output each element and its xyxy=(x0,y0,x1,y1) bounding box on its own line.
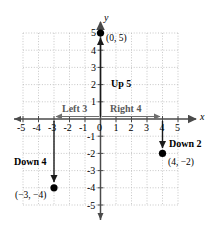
x-tick-1: 1 xyxy=(114,123,119,133)
point-neg3-neg4-label: (−3, −4) xyxy=(15,191,46,201)
y-axis-bottom-arrowhead xyxy=(98,213,104,220)
y-tick-neg2: -2 xyxy=(87,149,95,159)
y-tick-2: 2 xyxy=(91,80,96,90)
x-tick-neg5: -5 xyxy=(17,123,25,133)
up-5-label: Up 5 xyxy=(111,79,131,89)
x-tick-0: 0 xyxy=(97,123,102,133)
down-2-label: Down 2 xyxy=(169,139,202,149)
y-tick-4: 4 xyxy=(91,46,96,56)
x-tick-2: 2 xyxy=(129,123,134,133)
y-axis-label: y xyxy=(104,13,108,23)
x-axis-label: x xyxy=(200,112,204,122)
y-tick-neg5: -5 xyxy=(87,201,95,211)
x-tick-5: 5 xyxy=(175,123,180,133)
right-4-label: Right 4 xyxy=(110,104,141,114)
point-4-neg2-label: (4, −2) xyxy=(168,158,194,168)
x-tick-neg2: -2 xyxy=(64,123,72,133)
y-tick-1: 1 xyxy=(91,97,96,107)
x-tick-neg4: -4 xyxy=(33,123,41,133)
x-tick-3: 3 xyxy=(144,123,149,133)
y-tick-neg3: -3 xyxy=(87,166,95,176)
left-3-label: Left 3 xyxy=(62,104,87,114)
y-tick-neg1: -1 xyxy=(87,132,95,142)
point-4-neg2-dot xyxy=(159,150,166,157)
y-tick-neg4: -4 xyxy=(87,183,95,193)
x-tick-neg3: -3 xyxy=(48,123,56,133)
point-0-5-label: (0, 5) xyxy=(106,34,127,44)
point-neg3-neg4-dot xyxy=(50,184,57,191)
y-tick-5: 5 xyxy=(91,28,96,38)
y-tick-3: 3 xyxy=(91,63,96,73)
down-4-label: Down 4 xyxy=(14,157,47,167)
x-tick-4: 4 xyxy=(160,123,165,133)
point-0-5-dot xyxy=(97,29,104,36)
coordinate-plane-figure: y x -5 -4 -3 -2 -1 0 1 2 3 4 5 1 2 3 4 5… xyxy=(0,0,222,230)
